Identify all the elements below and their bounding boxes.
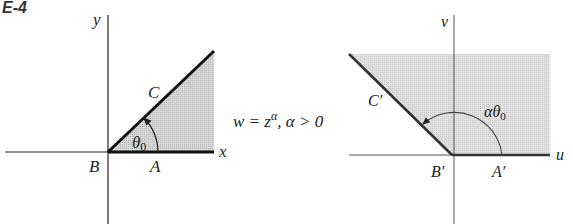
point-B'-label: B′ [431,163,445,180]
point-A-label: A [149,157,161,176]
figure-label: E-4 [2,0,27,16]
point-B-label: B [89,157,100,176]
point-A'-label: A′ [491,163,506,180]
x-axis-label: x [218,142,227,161]
v-axis-label: v [441,13,449,30]
point-C-label: C [148,83,160,102]
conformal-map-figure: E-4 y x B A C θ0 w = zα, α > 0 v u B′ A′… [0,0,573,224]
y-axis-label: y [91,10,101,29]
mapping-formula: w = zα, α > 0 [233,109,324,131]
u-axis-label: u [556,146,564,163]
z-plane: y x B A C θ0 [5,10,227,224]
w-plane: v u B′ A′ C′ αθ0 [349,13,564,224]
point-C'-label: C′ [368,92,383,109]
